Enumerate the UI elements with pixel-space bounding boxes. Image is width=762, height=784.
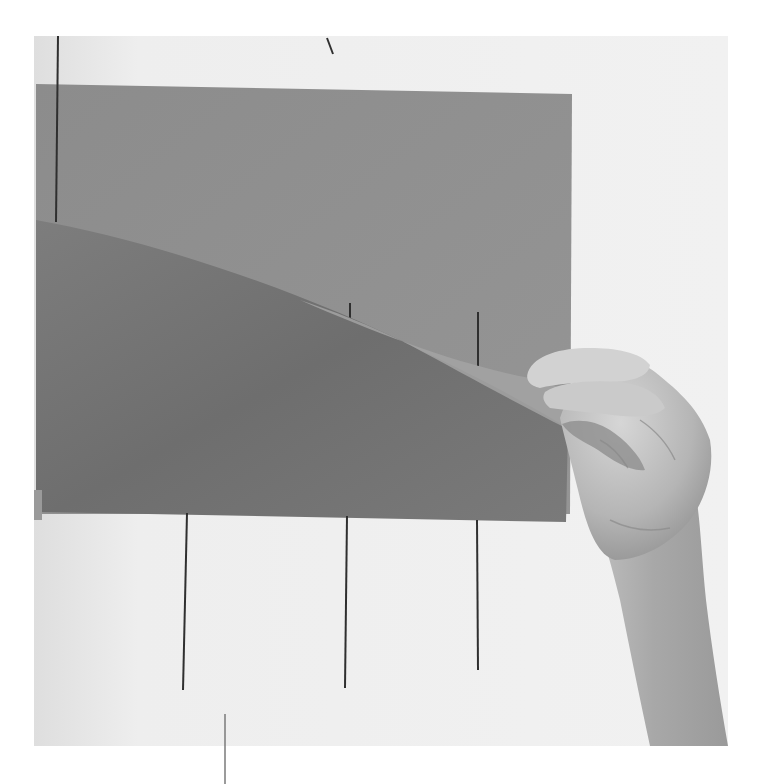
photo-canvas — [0, 0, 762, 784]
photo-scene — [0, 0, 762, 784]
sheet-corner-shadow — [34, 490, 42, 520]
guide-line — [477, 520, 478, 670]
